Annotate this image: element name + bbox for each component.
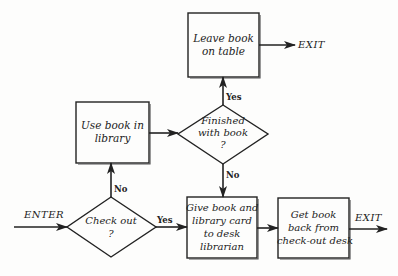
use-book-line-1: Use book in <box>76 119 149 132</box>
give-book-line-1: Give book and <box>186 201 258 214</box>
give-book-line-4: librarian <box>186 240 258 253</box>
finished-label: Finished with book ? <box>183 115 263 151</box>
give-book-label: Give book and library card to desk libra… <box>186 201 258 253</box>
get-book-line-3: check-out desk <box>277 234 350 247</box>
exit-bottom-label: EXIT <box>355 212 382 223</box>
get-book-label: Get book back from check-out desk <box>277 208 350 247</box>
finished-yes-label: Yes <box>226 92 242 102</box>
flowchart: Leave book on table EXIT Yes Finished wi… <box>0 0 398 276</box>
finished-line-3: ? <box>183 139 263 151</box>
exit-top-label: EXIT <box>298 39 325 50</box>
finished-line-1: Finished <box>183 115 263 127</box>
give-book-line-3: to desk <box>186 227 258 240</box>
leave-book-line-2: on table <box>188 45 259 58</box>
give-book-line-2: library card <box>186 214 258 227</box>
get-book-line-2: back from <box>277 221 350 234</box>
finished-no-label: No <box>226 170 239 180</box>
checkout-no-label: No <box>114 184 127 194</box>
checkout-yes-label: Yes <box>157 215 173 225</box>
leave-book-line-1: Leave book <box>188 32 259 45</box>
use-book-label: Use book in library <box>76 119 149 145</box>
check-out-label: Check out ? <box>76 214 146 240</box>
finished-line-2: with book <box>183 127 263 139</box>
check-out-line-2: ? <box>76 227 146 240</box>
enter-label: ENTER <box>24 209 64 220</box>
check-out-line-1: Check out <box>76 214 146 227</box>
leave-book-label: Leave book on table <box>188 32 259 58</box>
get-book-line-1: Get book <box>277 208 350 221</box>
use-book-line-2: library <box>76 132 149 145</box>
